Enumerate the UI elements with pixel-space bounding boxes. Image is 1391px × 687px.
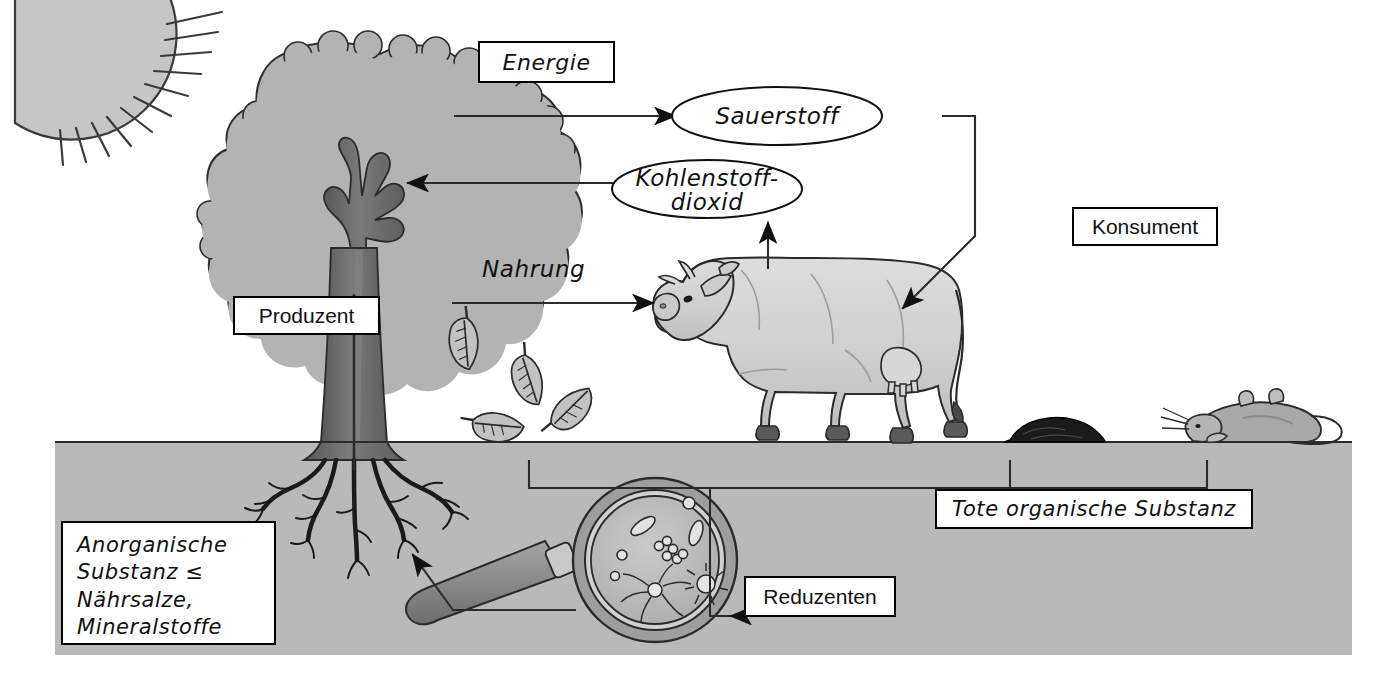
nahrung-label: Nahrung bbox=[482, 256, 585, 282]
reduzenten-label: Reduzenten bbox=[763, 585, 876, 609]
anorganische-line-2: Substanz ≤ bbox=[77, 559, 262, 586]
anorganische-line-1: Anorganische bbox=[77, 532, 262, 559]
cow-consumer bbox=[653, 257, 967, 443]
sun-icon bbox=[15, 0, 222, 165]
dead-mouse bbox=[1161, 389, 1342, 444]
produzent-box[interactable]: Produzent bbox=[233, 296, 380, 335]
kohlenstoffdioxid-label-line2: dioxid bbox=[671, 189, 744, 215]
tote-organische-substanz-label: Tote organische Substanz bbox=[952, 497, 1236, 521]
dung-pile bbox=[1005, 418, 1105, 442]
sauerstoff-label: Sauerstoff bbox=[715, 103, 841, 129]
ecosystem-diagram: Sauerstoff Kohlenstoff- dioxid Energie P… bbox=[0, 0, 1391, 687]
anorganische-line-4: Mineralstoffe bbox=[77, 614, 262, 641]
scene: Sauerstoff Kohlenstoff- dioxid Energie P… bbox=[55, 18, 1352, 655]
ellipse-layer: Sauerstoff Kohlenstoff- dioxid bbox=[612, 87, 882, 218]
anorganische-line-3: Nährsalze, bbox=[77, 587, 262, 614]
reduzenten-box[interactable]: Reduzenten bbox=[744, 576, 896, 617]
energie-label: Energie bbox=[502, 50, 590, 75]
magnifier-decomposers bbox=[406, 478, 737, 642]
tote-organische-substanz-box[interactable]: Tote organische Substanz bbox=[935, 489, 1253, 529]
kohlenstoffdioxid-label-line1: Kohlenstoff- bbox=[635, 165, 778, 191]
konsument-label: Konsument bbox=[1092, 215, 1198, 239]
energie-box[interactable]: Energie bbox=[478, 41, 615, 83]
anorganische-substanz-box[interactable]: Anorganische Substanz ≤ Nährsalze, Miner… bbox=[61, 521, 276, 645]
produzent-label: Produzent bbox=[259, 304, 355, 328]
konsument-box[interactable]: Konsument bbox=[1072, 207, 1218, 246]
